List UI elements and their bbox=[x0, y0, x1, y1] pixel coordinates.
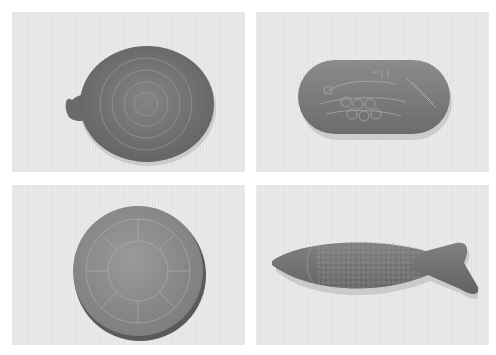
sun-disc-image bbox=[12, 185, 245, 345]
figure-caption bbox=[0, 345, 496, 355]
fish-plaque-image bbox=[256, 185, 489, 345]
photo-panel-sun-disc bbox=[12, 185, 245, 345]
photo-panel-oval-tablet bbox=[256, 12, 489, 172]
handled-disc-image bbox=[12, 12, 245, 172]
photo-panel-fish-plaque bbox=[256, 185, 489, 345]
oval-tablet-image bbox=[256, 12, 489, 172]
photo-panel-handled-disc bbox=[12, 12, 245, 172]
